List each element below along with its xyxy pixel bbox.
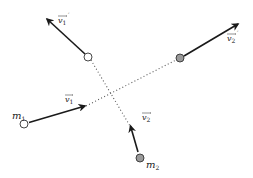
mass-1-label: m1 — [12, 110, 25, 122]
vector-v1-prime-label: v1 — [58, 16, 66, 26]
vector-v2-prime-label: v2 — [227, 34, 236, 44]
collision-diagram: m1 m2 v1 v2 v1 ′ v2 ′ — [0, 0, 253, 178]
vector-v2-arrow — [131, 126, 139, 152]
v2-prime-mark: ′ — [237, 29, 239, 36]
mass-2-after-circle — [176, 54, 184, 62]
trajectory-1-line — [86, 60, 176, 106]
trajectory-2-line — [91, 60, 130, 126]
vector-v1-arrow — [29, 106, 85, 123]
vector-v2-label: v2 — [142, 113, 151, 123]
mass-2-label: m2 — [146, 159, 159, 171]
mass-2-circle — [136, 154, 144, 162]
v1-prime-mark: ′ — [68, 11, 70, 18]
mass-1-after-circle — [84, 53, 92, 61]
vector-v1-label: v1 — [65, 95, 73, 105]
